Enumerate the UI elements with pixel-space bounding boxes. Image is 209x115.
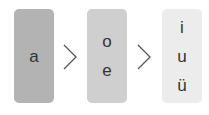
vowel-group-2: o e <box>87 9 127 103</box>
vowel-e: e <box>102 62 111 79</box>
vowel-group-3: i u ü <box>162 9 202 103</box>
vowel-u: u <box>177 48 186 65</box>
vowel-i: i <box>180 19 184 36</box>
chevron-right-icon <box>63 44 77 70</box>
vowel-group-1: a <box>14 9 54 103</box>
vowel-u-umlaut: ü <box>177 77 186 94</box>
vowel-o: o <box>102 33 111 50</box>
chevron-right-icon <box>137 44 151 70</box>
vowel-a: a <box>29 48 38 65</box>
